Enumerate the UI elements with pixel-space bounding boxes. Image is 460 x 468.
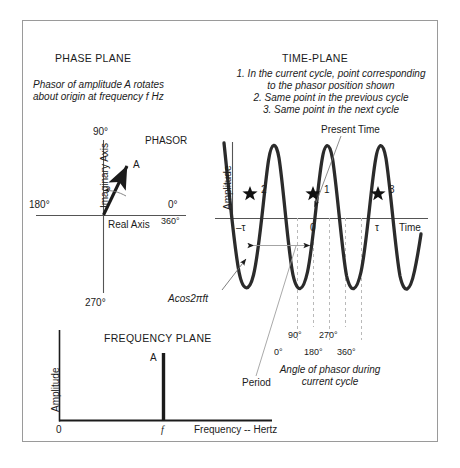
- phasor-heading: PHASOR: [145, 135, 187, 147]
- tick-label-tau: τ: [375, 222, 379, 234]
- phase-gridlabel-270: 270°: [319, 330, 338, 341]
- angle-caption-line1: Angle of phasor during: [250, 364, 410, 376]
- phase-gridlabel-180: 180°: [304, 347, 323, 358]
- frequency-plane-amplitude-label: Amplitude: [50, 368, 62, 412]
- tick-label-zero: 0: [310, 222, 316, 234]
- phasor-amplitude-label: A: [133, 159, 140, 171]
- time-plane-note-3: 3. Same point in the next cycle: [206, 104, 456, 116]
- frequency-axis-label: Frequency -- Hertz: [194, 424, 277, 436]
- time-plane-note-1b: to the phasor position shown: [206, 80, 456, 92]
- marker-label-2: 2: [261, 184, 267, 196]
- phase-plane-caption-line1: Phasor of amplitude A rotates: [33, 79, 164, 91]
- phase-plane-heading: PHASE PLANE: [55, 52, 131, 64]
- phase-plane-caption-line2: about origin at frequency f Hz: [33, 91, 164, 103]
- phase-angle-180: 180°: [29, 199, 50, 211]
- marker-label-1: 1: [324, 184, 330, 196]
- time-axis-label: Time: [399, 222, 421, 234]
- phase-gridlabel-90: 90°: [288, 330, 302, 341]
- angle-caption-line2: current cycle: [250, 376, 410, 388]
- figure-canvas: PHASE PLANE Phasor of amplitude A rotate…: [0, 0, 460, 468]
- marker-label-3: 3: [389, 184, 395, 196]
- phase-angle-360: 360°: [161, 216, 180, 227]
- frequency-tick-f: f: [161, 424, 164, 436]
- frequency-plane-heading: FREQUENCY PLANE: [104, 332, 212, 344]
- cosine-equation-label: Acos2πft: [168, 293, 208, 305]
- time-plane-note-1: 1. In the current cycle, point correspon…: [206, 68, 456, 80]
- phase-angle-90: 90°: [93, 126, 108, 138]
- time-plane-heading: TIME-PLANE: [282, 52, 348, 64]
- tick-label-neg-tau: –τ: [236, 222, 246, 234]
- frequency-tick-zero: 0: [56, 424, 62, 436]
- phase-gridlabel-0: 0°: [274, 347, 283, 358]
- real-axis-label: Real Axis: [108, 219, 150, 231]
- frequency-spike-amplitude-label: A: [150, 352, 157, 364]
- phase-gridlabel-360: 360°: [337, 347, 356, 358]
- time-plane-note-2: 2. Same point in the previous cycle: [206, 92, 456, 104]
- imaginary-axis-label: Imaginary Axis: [99, 143, 111, 208]
- phase-angle-270: 270°: [85, 297, 106, 309]
- present-time-label: Present Time: [321, 124, 380, 136]
- time-plane-amplitude-label: Amplitude: [222, 166, 234, 210]
- phase-angle-0: 0°: [168, 199, 178, 211]
